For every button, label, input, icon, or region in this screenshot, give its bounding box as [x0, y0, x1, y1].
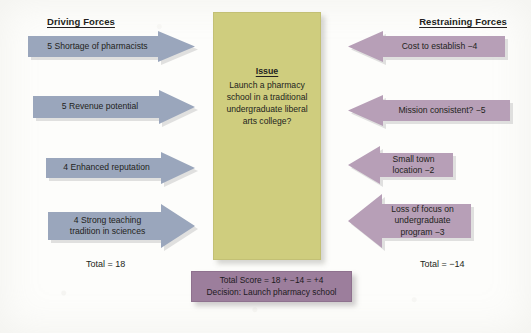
restraining-force-arrow-1: Cost to establish −4: [348, 31, 505, 62]
driving-force-arrow-4: 4 Strong teaching tradition in sciences: [48, 204, 195, 248]
restraining-force-arrow-3: Small town location −2: [348, 146, 453, 184]
issue-heading: Issue: [220, 65, 314, 77]
right-arrow-icon: [28, 31, 195, 62]
restraining-force-arrow-4: Loss of focus on undergraduate program −…: [348, 194, 471, 248]
right-arrow-icon: [33, 90, 195, 124]
decision-line: Decision: Launch pharmacy school: [207, 287, 337, 299]
driving-forces-total: Total = 18: [86, 259, 125, 269]
driving-forces-heading: Driving Forces: [47, 16, 115, 27]
restraining-forces-total: Total = −14: [420, 259, 465, 269]
right-arrow-icon: [48, 204, 195, 248]
issue-text: Launch a pharmacy school in a traditiona…: [226, 80, 307, 126]
total-score-line: Total Score = 18 + −14 = +4: [220, 275, 324, 287]
force-field-analysis-diagram: Driving Forces Restraining Forces 5 Shor…: [0, 0, 531, 333]
driving-force-arrow-2: 5 Revenue potential: [33, 90, 195, 124]
left-arrow-icon: [348, 31, 505, 62]
driving-force-arrow-1: 5 Shortage of pharmacists: [28, 31, 195, 62]
decision-box: Total Score = 18 + −14 = +4 Decision: La…: [191, 271, 352, 302]
left-arrow-icon: [348, 194, 471, 248]
restraining-forces-heading: Restraining Forces: [419, 16, 507, 27]
issue-box: Issue Launch a pharmacy school in a trad…: [213, 12, 321, 260]
issue-content: Issue Launch a pharmacy school in a trad…: [214, 65, 320, 127]
driving-force-arrow-3: 4 Enhanced reputation: [46, 152, 195, 184]
left-arrow-icon: [348, 146, 453, 184]
right-arrow-icon: [46, 152, 195, 184]
restraining-force-arrow-2: Mission consistent? −5: [348, 95, 510, 126]
left-arrow-icon: [348, 95, 510, 126]
